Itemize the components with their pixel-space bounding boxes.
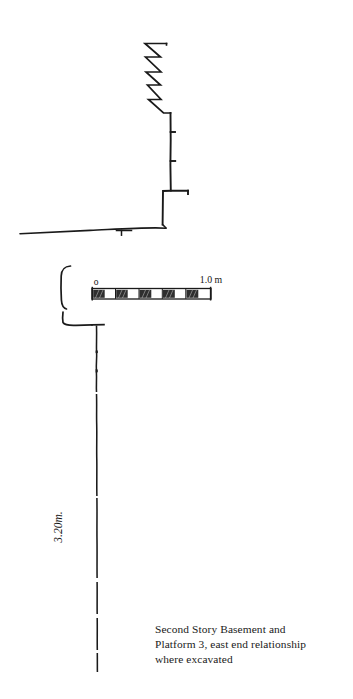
caption-line-3: where excavated	[155, 652, 347, 667]
kink-2	[95, 370, 97, 373]
scale-label-right: 1.0 m	[200, 274, 223, 285]
scale-seg-hatch-2	[116, 290, 128, 298]
bracket-connector-upper	[61, 266, 71, 309]
ground-tick-marker	[117, 230, 132, 235]
scale-label-left: o	[94, 277, 99, 287]
scale-seg-hatch-1	[93, 290, 105, 298]
lower-wall-face	[96, 326, 97, 673]
bracket-connector-lower	[63, 312, 92, 325]
depth-dimension-label: 3.20m.	[52, 511, 64, 543]
scale-bar	[92, 287, 211, 301]
zigzag-break-symbol	[145, 44, 171, 114]
caption-line-1: Second Story Basement and	[155, 622, 347, 637]
kink-1	[96, 351, 98, 354]
figure-caption: Second Story Basement and Platform 3, ea…	[155, 622, 347, 666]
figure-root: o 1.0 m 3.20m. Second Story Basement and…	[0, 0, 353, 699]
section-drawing: o 1.0 m 3.20m.	[0, 0, 353, 699]
platform-ledge	[163, 191, 188, 225]
ground-surface-line	[20, 225, 166, 234]
caption-line-2: Platform 3, east end relationship	[155, 637, 347, 652]
